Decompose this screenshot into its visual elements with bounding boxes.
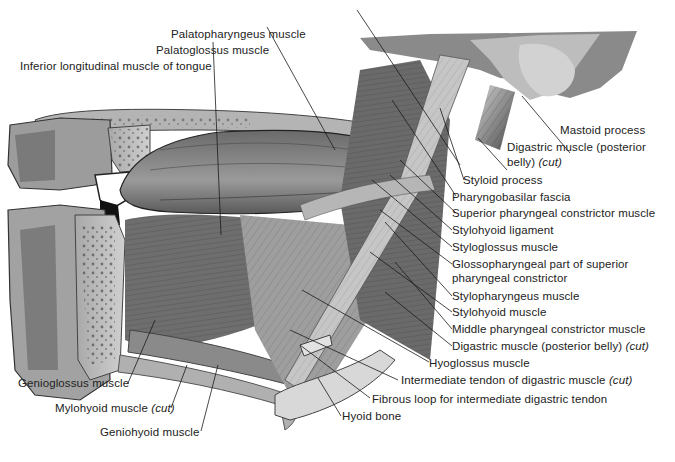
label-styloid-process: Styloid process xyxy=(463,174,542,187)
label-mastoid-process: Mastoid process xyxy=(560,124,645,137)
label-digastric-posterior-line2: belly) (cut) xyxy=(507,156,562,169)
label-inferior-longitudinal-muscle: Inferior longitudinal muscle of tongue xyxy=(20,60,212,73)
label-italic: (cut) xyxy=(538,156,562,168)
label-mylohyoid-muscle: Mylohyoid muscle (cut) xyxy=(55,402,175,415)
label-text: Intermediate tendon of digastric muscle xyxy=(401,374,609,386)
label-digastric-posterior-line1: Digastric muscle (posterior xyxy=(507,141,646,154)
label-geniohyoid-muscle: Geniohyoid muscle xyxy=(100,426,200,439)
label-hyoglossus-muscle: Hyoglossus muscle xyxy=(429,357,530,370)
label-stylohyoid-ligament: Stylohyoid ligament xyxy=(452,224,554,237)
label-palatopharyngeus-muscle: Palatopharyngeus muscle xyxy=(171,28,306,41)
label-palatoglossus-muscle: Palatoglossus muscle xyxy=(156,44,269,57)
label-stylopharyngeus-muscle: Stylopharyngeus muscle xyxy=(452,290,580,303)
label-text: belly) xyxy=(507,156,538,168)
label-fibrous-loop: Fibrous loop for intermediate digastric … xyxy=(372,393,607,406)
label-text: Mylohyoid muscle xyxy=(55,402,151,414)
label-digastric-posterior-belly-cut: Digastric muscle (posterior belly) (cut) xyxy=(452,340,649,353)
label-superior-pharyngeal-constrictor: Superior pharyngeal constrictor muscle xyxy=(452,207,655,220)
label-glossopharyngeal-line1: Glossopharyngeal part of superior xyxy=(452,258,629,271)
anatomy-figure: Palatopharyngeus muscle Palatoglossus mu… xyxy=(0,0,675,462)
label-styloglossus-muscle: Styloglossus muscle xyxy=(452,241,558,254)
label-italic: (cut) xyxy=(626,340,650,352)
label-hyoid-bone: Hyoid bone xyxy=(342,410,401,423)
label-text: Digastric muscle (posterior belly) xyxy=(452,340,626,352)
label-middle-pharyngeal-constrictor: Middle pharyngeal constrictor muscle xyxy=(452,323,645,336)
label-intermediate-tendon: Intermediate tendon of digastric muscle … xyxy=(401,374,632,387)
label-italic: (cut) xyxy=(151,402,175,414)
label-stylohyoid-muscle: Stylohyoid muscle xyxy=(452,306,546,319)
label-pharyngobasilar-fascia: Pharyngobasilar fascia xyxy=(452,191,571,204)
label-genioglossus-muscle: Genioglossus muscle xyxy=(18,377,129,390)
label-italic: (cut) xyxy=(609,374,633,386)
label-glossopharyngeal-line2: pharyngeal constrictor xyxy=(452,272,567,285)
